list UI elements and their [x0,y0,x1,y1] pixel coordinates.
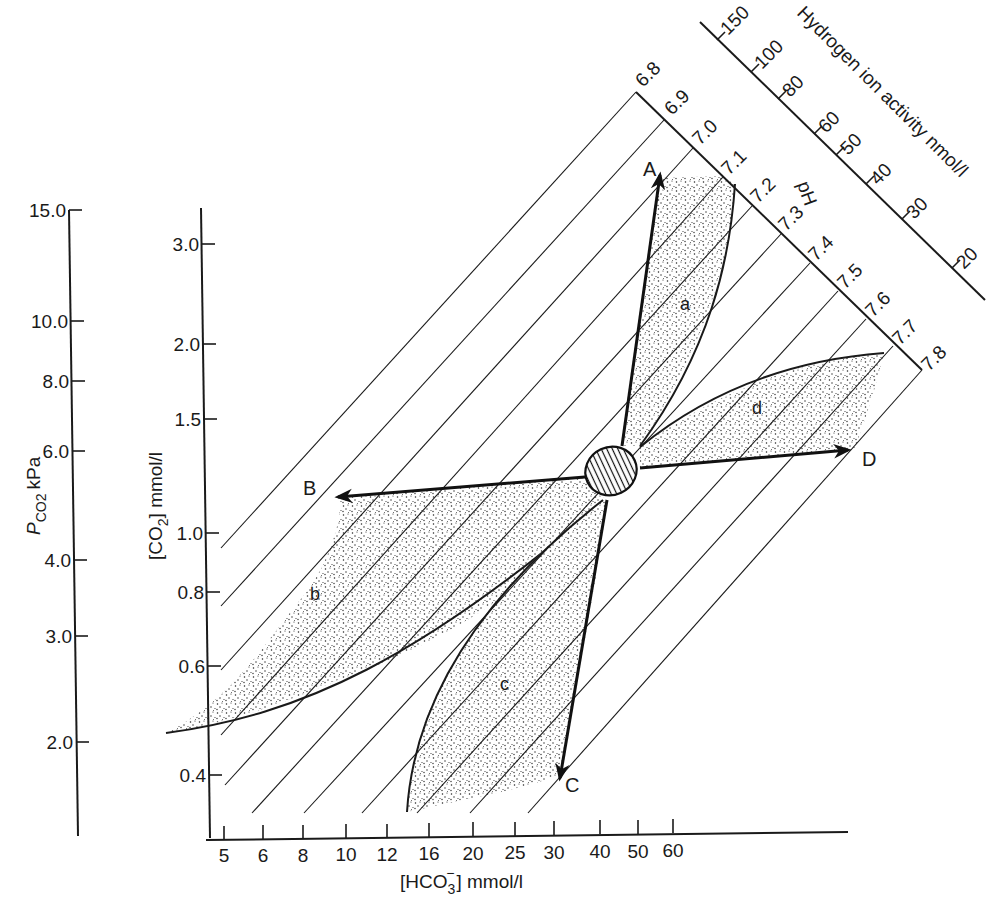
acid-base-nomogram: a b c d A B C D 6.8 6.9 7.0 7.1 7.2 7.3 … [0,0,1005,905]
svg-text:1.0: 1.0 [177,523,203,544]
svg-text:10: 10 [335,844,356,865]
svg-text:40: 40 [589,841,610,862]
arrow-label-B: B [303,477,316,499]
svg-text:0.4: 0.4 [180,765,207,786]
svg-text:10.0: 10.0 [31,311,68,332]
region-label-d: d [752,398,762,418]
hco3-axis-title: [HCO3−] mmol/l [400,865,523,897]
hco3-axis-labels: 5 6 8 10 12 16 20 25 30 40 50 60 [219,840,684,866]
hydrogen-ion-ticks [717,32,960,268]
svg-text:6.8: 6.8 [631,57,665,91]
svg-text:25: 25 [504,842,525,863]
svg-text:2.0: 2.0 [47,732,73,753]
svg-text:30: 30 [543,842,564,863]
hydrogen-ion-title: Hydrogen ion activity nmol/l [793,2,972,181]
svg-text:5: 5 [219,845,230,866]
svg-text:8.0: 8.0 [43,371,69,392]
svg-text:40: 40 [866,159,896,189]
svg-text:150: 150 [716,2,753,39]
svg-text:50: 50 [836,129,866,159]
co2-axis-title: [CO2] mmol/l [145,452,171,560]
svg-text:7.7: 7.7 [888,315,922,349]
pco2-axis-title: PCO2kPa [23,456,49,535]
region-label-b: b [310,584,320,604]
svg-text:60: 60 [814,107,844,137]
svg-text:1.5: 1.5 [175,409,201,430]
svg-text:60: 60 [662,840,683,861]
co2-axis-labels: 3.0 2.0 1.5 1.0 0.8 0.6 0.4 [173,234,207,786]
svg-text:50: 50 [627,841,648,862]
arrow-label-C: C [565,774,579,796]
svg-text:0.6: 0.6 [179,656,205,677]
ph-scale-title: pH [793,178,821,208]
svg-text:7.1: 7.1 [717,145,751,179]
svg-text:7.0: 7.0 [688,115,722,149]
svg-text:20: 20 [462,843,483,864]
region-label-c: c [500,674,509,694]
svg-text:16: 16 [418,843,439,864]
svg-text:3.0: 3.0 [46,626,72,647]
arrow-label-D: D [862,448,876,470]
svg-text:3.0: 3.0 [173,234,199,255]
svg-text:12: 12 [376,844,397,865]
svg-text:20: 20 [952,243,982,273]
svg-text:30: 30 [902,193,932,223]
svg-text:6: 6 [258,845,269,866]
svg-text:15.0: 15.0 [29,200,66,221]
svg-text:6.9: 6.9 [660,85,694,119]
svg-text:6.0: 6.0 [43,441,69,462]
svg-text:80: 80 [778,71,808,101]
svg-text:7.2: 7.2 [746,173,780,207]
svg-text:0.8: 0.8 [178,582,204,603]
region-label-a: a [680,294,691,314]
arrow-label-A: A [643,158,657,180]
svg-text:2.0: 2.0 [174,334,200,355]
svg-text:4.0: 4.0 [45,550,71,571]
svg-text:8: 8 [298,845,309,866]
